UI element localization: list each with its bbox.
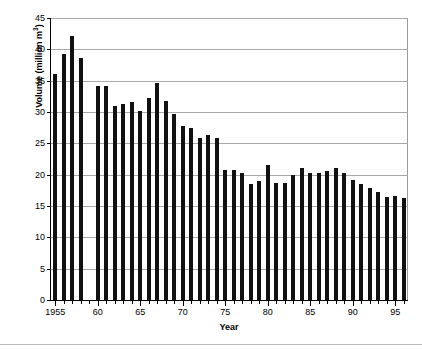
gridline xyxy=(51,49,408,50)
bar xyxy=(376,192,380,300)
y-tick-label: 25 xyxy=(35,138,45,148)
x-tick-mark xyxy=(378,300,379,304)
x-tick-mark-major xyxy=(395,300,396,306)
x-tick-label: 95 xyxy=(390,307,400,317)
x-tick-mark xyxy=(115,300,116,304)
bar xyxy=(223,170,227,300)
bar xyxy=(300,168,304,300)
bar xyxy=(291,175,295,300)
x-tick-mark xyxy=(72,300,73,304)
bar xyxy=(334,168,338,300)
x-tick-mark xyxy=(217,300,218,304)
x-tick-mark xyxy=(123,300,124,304)
x-tick-mark xyxy=(132,300,133,304)
x-tick-mark xyxy=(285,300,286,304)
plot-area: 051015202530354045 19556065707580859095 xyxy=(50,18,408,301)
gridline xyxy=(51,81,408,82)
x-tick-mark xyxy=(64,300,65,304)
y-axis-title-tail: ) xyxy=(34,24,44,27)
x-tick-mark xyxy=(174,300,175,304)
x-tick-label: 60 xyxy=(93,307,103,317)
y-tick-label: 45 xyxy=(35,13,45,23)
x-tick-mark xyxy=(149,300,150,304)
bar xyxy=(215,138,219,300)
y-tick-label: 5 xyxy=(40,264,45,274)
y-tick-mark xyxy=(47,175,51,176)
x-tick-mark xyxy=(242,300,243,304)
bar xyxy=(164,101,168,300)
x-tick-mark xyxy=(302,300,303,304)
bar xyxy=(155,83,159,300)
y-tick-label: 15 xyxy=(35,201,45,211)
x-tick-label: 70 xyxy=(178,307,188,317)
bar xyxy=(266,165,270,300)
y-axis-title-superscript: 3 xyxy=(32,27,39,31)
x-tick-mark-major xyxy=(353,300,354,306)
bar xyxy=(385,197,389,300)
bar xyxy=(181,126,185,300)
y-tick-mark xyxy=(47,269,51,270)
x-tick-mark xyxy=(387,300,388,304)
bar xyxy=(121,104,125,300)
x-tick-mark xyxy=(404,300,405,304)
x-tick-label: 90 xyxy=(348,307,358,317)
y-axis-title-text: Volume (million m xyxy=(34,31,44,108)
x-tick-mark xyxy=(361,300,362,304)
plot-border-right xyxy=(407,18,408,300)
x-tick-mark-major xyxy=(225,300,226,306)
x-tick-mark xyxy=(208,300,209,304)
x-tick-mark xyxy=(251,300,252,304)
bar xyxy=(393,196,397,300)
x-tick-mark-major xyxy=(310,300,311,306)
y-tick-mark xyxy=(47,112,51,113)
bar xyxy=(274,183,278,300)
bar xyxy=(96,86,100,300)
bar xyxy=(342,173,346,300)
bar xyxy=(351,180,355,300)
bar xyxy=(138,111,142,300)
x-tick-mark xyxy=(344,300,345,304)
y-tick-mark xyxy=(47,206,51,207)
bar xyxy=(104,86,108,300)
y-tick-mark xyxy=(47,300,51,301)
bar xyxy=(113,106,117,300)
y-tick-label: 40 xyxy=(35,44,45,54)
x-tick-mark xyxy=(276,300,277,304)
x-tick-label: 1955 xyxy=(45,307,65,317)
bar xyxy=(147,98,151,300)
x-tick-mark xyxy=(234,300,235,304)
y-tick-label: 0 xyxy=(40,295,45,305)
bar xyxy=(283,183,287,300)
bar xyxy=(172,114,176,300)
bar xyxy=(325,171,329,300)
bar xyxy=(232,170,236,300)
x-tick-mark xyxy=(259,300,260,304)
x-tick-mark xyxy=(200,300,201,304)
bar-chart: Volume (million m3) 051015202530354045 1… xyxy=(0,0,422,350)
bar xyxy=(189,128,193,300)
bar xyxy=(317,173,321,300)
y-tick-label: 20 xyxy=(35,170,45,180)
x-tick-mark-major xyxy=(55,300,56,306)
bar xyxy=(130,102,134,300)
bar xyxy=(359,184,363,300)
bar xyxy=(249,184,253,300)
x-tick-label: 65 xyxy=(135,307,145,317)
x-tick-mark xyxy=(89,300,90,304)
y-tick-mark xyxy=(47,49,51,50)
x-tick-mark-major xyxy=(98,300,99,306)
bar xyxy=(308,173,312,300)
bar xyxy=(368,188,372,300)
x-tick-mark-major xyxy=(268,300,269,306)
y-tick-mark xyxy=(47,143,51,144)
bottom-divider xyxy=(0,344,422,345)
x-tick-mark xyxy=(370,300,371,304)
bar xyxy=(53,74,57,300)
x-tick-mark-major xyxy=(140,300,141,306)
bar xyxy=(206,135,210,300)
x-tick-label: 75 xyxy=(220,307,230,317)
x-tick-mark-major xyxy=(183,300,184,306)
y-tick-mark xyxy=(47,18,51,19)
y-tick-label: 30 xyxy=(35,107,45,117)
y-tick-label: 10 xyxy=(35,232,45,242)
